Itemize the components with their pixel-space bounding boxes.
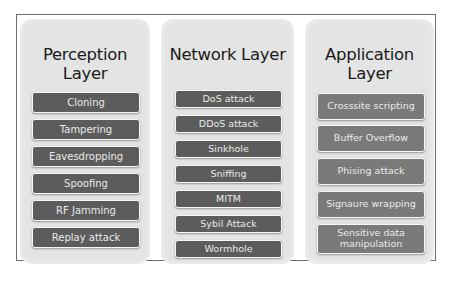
attack-item-dos: DoS attack bbox=[175, 90, 282, 108]
attack-item-sybil: Sybil Attack bbox=[175, 215, 282, 233]
attack-item-sensitive-data-manipulation: Sensitive data manipulation bbox=[317, 224, 425, 254]
attack-item-eavesdropping: Eavesdropping bbox=[32, 146, 140, 167]
attack-item-signature-wrapping: Signaure wrapping bbox=[317, 191, 425, 218]
attack-item-sinkhole: Sinkhole bbox=[175, 140, 282, 158]
attack-item-cloning: Cloning bbox=[32, 92, 140, 113]
perception-layer-title: Perception Layer bbox=[20, 45, 150, 83]
attack-item-replay-attack: Replay attack bbox=[32, 227, 140, 248]
application-layer-panel: Application Layer Crosssite scripting Bu… bbox=[305, 19, 434, 264]
attack-item-mitm: MITM bbox=[175, 190, 282, 208]
attack-item-rf-jamming: RF Jamming bbox=[32, 200, 140, 221]
attack-item-crosssite-scripting: Crosssite scripting bbox=[317, 93, 425, 120]
application-layer-title: Application Layer bbox=[305, 45, 434, 83]
network-layer-title: Network Layer bbox=[161, 45, 294, 64]
attack-item-ddos: DDoS attack bbox=[175, 115, 282, 133]
attack-item-tampering: Tampering bbox=[32, 119, 140, 140]
perception-layer-panel: Perception Layer Cloning Tampering Eaves… bbox=[20, 19, 150, 264]
attack-item-phising: Phising attack bbox=[317, 158, 425, 185]
attack-item-buffer-overflow: Buffer Overflow bbox=[317, 125, 425, 152]
network-layer-panel: Network Layer DoS attack DDoS attack Sin… bbox=[161, 19, 294, 264]
attack-item-sniffing: Sniffing bbox=[175, 165, 282, 183]
attack-item-wormhole: Wormhole bbox=[175, 240, 282, 258]
attack-item-spoofing: Spoofing bbox=[32, 173, 140, 194]
